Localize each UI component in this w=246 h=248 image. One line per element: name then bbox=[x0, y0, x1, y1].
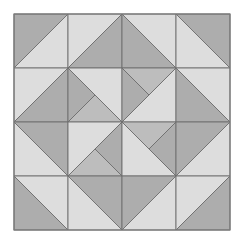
quilt-cells bbox=[14, 14, 230, 230]
quilt-cell bbox=[122, 176, 176, 230]
quilt-cell bbox=[176, 68, 230, 122]
quilt-pattern bbox=[0, 0, 246, 248]
quilt-cell bbox=[122, 122, 176, 176]
quilt-cell bbox=[176, 176, 230, 230]
quilt-cell bbox=[122, 68, 176, 122]
quilt-cell bbox=[14, 68, 68, 122]
quilt-cell bbox=[14, 176, 68, 230]
quilt-cell bbox=[68, 122, 122, 176]
quilt-cell bbox=[176, 14, 230, 68]
quilt-cell bbox=[122, 14, 176, 68]
quilt-cell bbox=[68, 68, 122, 122]
quilt-cell bbox=[14, 122, 68, 176]
quilt-cell bbox=[68, 176, 122, 230]
quilt-cell bbox=[14, 14, 68, 68]
quilt-cell bbox=[176, 122, 230, 176]
quilt-cell bbox=[68, 14, 122, 68]
